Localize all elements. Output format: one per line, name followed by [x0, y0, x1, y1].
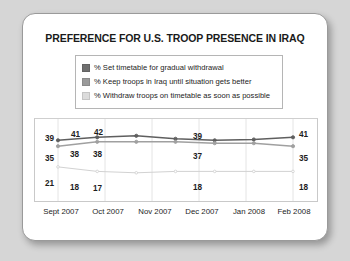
series-point [57, 166, 60, 169]
data-label: 18 [299, 184, 308, 192]
data-label: 17 [93, 185, 102, 193]
x-axis-tick-label: Sept 2007 [36, 208, 86, 216]
x-axis-tick-label: Oct 2007 [83, 208, 133, 216]
legend-swatch-set-timetable [82, 64, 90, 72]
x-axis-tick-label: Jan 2008 [224, 208, 274, 216]
series-point [292, 170, 295, 173]
x-axis-tick-label: Nov 2007 [130, 208, 180, 216]
legend-item[interactable]: % Withdraw troops on timetable as soon a… [82, 89, 276, 102]
series-point [213, 170, 216, 173]
data-label: 38 [93, 151, 102, 159]
series-point [135, 172, 138, 175]
series-point [96, 170, 99, 173]
legend-item[interactable]: % Set timetable for gradual withdrawal [82, 61, 276, 74]
series-point [135, 140, 138, 143]
page-title: PREFERENCE FOR U.S. TROOP PRESENCE IN IR… [23, 32, 327, 44]
series-point [174, 170, 177, 173]
series-point [291, 136, 294, 139]
legend-item-label: % Keep troops in Iraq until situation ge… [94, 78, 251, 86]
legend-item[interactable]: % Keep troops in Iraq until situation ge… [82, 75, 276, 88]
data-label: 41 [71, 131, 80, 139]
data-label: 35 [299, 155, 308, 163]
data-label: 18 [193, 184, 202, 192]
legend-swatch-keep-troops [82, 78, 90, 86]
chart-plot-area: 39 41 42 39 41 35 38 38 37 35 21 18 17 1… [34, 118, 318, 230]
data-label: 37 [193, 153, 202, 161]
series-point [56, 139, 59, 142]
data-label: 21 [45, 180, 54, 188]
data-label: 41 [299, 131, 308, 139]
x-axis-tick-label: Feb 2008 [269, 208, 319, 216]
data-label: 39 [45, 135, 54, 143]
series-point [96, 140, 99, 143]
series-point [291, 145, 294, 148]
data-label: 42 [94, 129, 103, 137]
series-point [135, 134, 138, 137]
data-label: 39 [193, 133, 202, 141]
chart-card: PREFERENCE FOR U.S. TROOP PRESENCE IN IR… [22, 13, 328, 241]
series-point [253, 170, 256, 173]
data-label: 18 [70, 184, 79, 192]
series-point [174, 140, 177, 143]
series-point [252, 142, 255, 145]
chart-legend: % Set timetable for gradual withdrawal %… [75, 55, 283, 109]
series-point [252, 138, 255, 141]
series-point [213, 142, 216, 145]
x-axis-tick-label: Dec 2007 [177, 208, 227, 216]
data-label: 35 [45, 155, 54, 163]
series-point [56, 145, 59, 148]
legend-swatch-withdraw-troops [82, 92, 90, 100]
legend-item-label: % Set timetable for gradual withdrawal [94, 64, 224, 72]
legend-item-label: % Withdraw troops on timetable as soon a… [94, 92, 270, 100]
data-label: 38 [70, 151, 79, 159]
